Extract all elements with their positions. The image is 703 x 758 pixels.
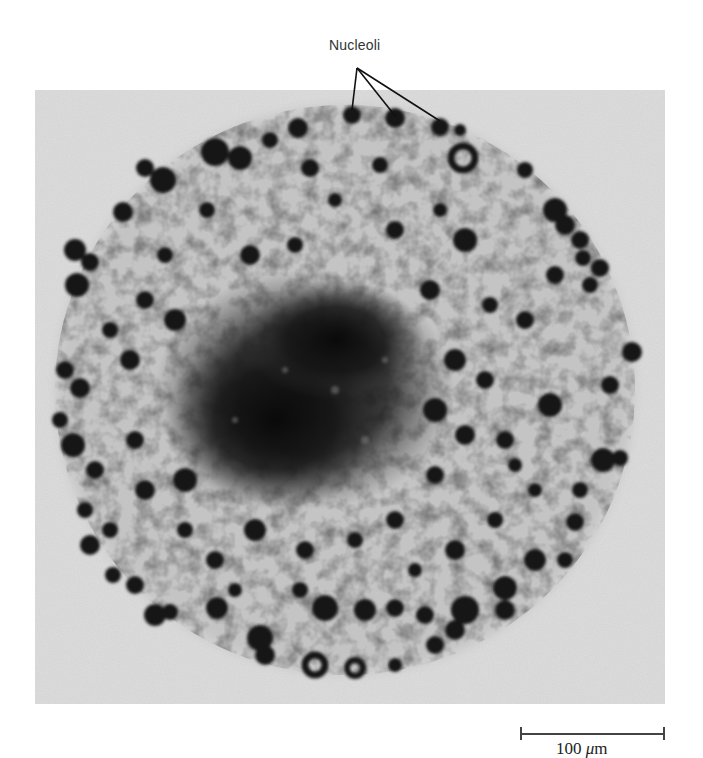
micrograph-figure: Nucleoli 100 μm [0,0,703,758]
scale-bar-line [520,733,664,735]
scale-bar-label: 100 μm [556,739,608,758]
scale-bar: 100 μm [520,725,665,755]
nucleoli-label: Nucleoli [329,37,380,53]
label-pointer-lines [0,0,703,758]
scale-bar-unit-m: m [594,739,607,758]
scale-bar-right-tick [663,727,665,740]
scale-bar-value: 100 [556,739,582,758]
scale-bar-unit-mu: μ [586,739,595,758]
